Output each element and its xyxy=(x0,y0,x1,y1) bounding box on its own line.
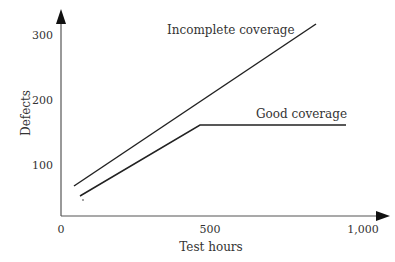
chart-svg: 300 200 100 0 500 1,000 Test hours Defec… xyxy=(0,0,395,262)
x-tick-500: 500 xyxy=(200,223,221,236)
x-axis-label: Test hours xyxy=(179,240,243,254)
defects-vs-test-hours-chart: 300 200 100 0 500 1,000 Test hours Defec… xyxy=(0,0,395,262)
x-tick-0: 0 xyxy=(58,223,65,236)
series-incomplete-coverage xyxy=(74,24,316,186)
stray-dot xyxy=(82,199,84,201)
y-tick-200: 200 xyxy=(32,94,53,107)
annotation-good-coverage: Good coverage xyxy=(256,107,347,121)
annotation-incomplete-coverage: Incomplete coverage xyxy=(167,23,295,37)
x-tick-1000: 1,000 xyxy=(347,223,379,236)
series-good-coverage xyxy=(80,125,346,196)
y-tick-300: 300 xyxy=(32,29,53,42)
x-axis-arrow-icon xyxy=(376,211,390,221)
y-axis-arrow-icon xyxy=(56,9,66,24)
y-tick-100: 100 xyxy=(32,159,53,172)
y-axis-label: Defects xyxy=(19,90,33,136)
